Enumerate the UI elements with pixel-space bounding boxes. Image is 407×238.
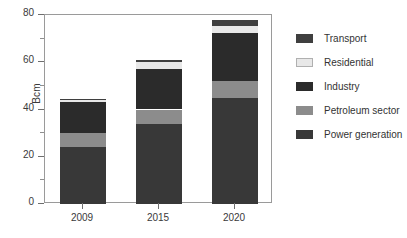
y-tick-0 xyxy=(38,203,44,204)
bar-segment-2015-power-generation xyxy=(136,124,182,204)
y-axis-title: Bcm xyxy=(31,64,42,124)
legend-swatch-icon xyxy=(296,106,313,115)
bar-segment-2020-industry xyxy=(212,33,258,81)
x-tick-2020 xyxy=(234,203,235,209)
y-tick-label-40: 40 xyxy=(2,102,34,113)
legend-item-residential[interactable]: Residential xyxy=(296,50,402,74)
legend-item-power-generation[interactable]: Power generation xyxy=(296,122,402,146)
chart-legend: TransportResidentialIndustryPetroleum se… xyxy=(296,26,402,146)
x-tick-label-2015: 2015 xyxy=(128,212,188,223)
bar-2015 xyxy=(136,15,182,204)
bar-segment-2009-petroleum-sector xyxy=(60,133,106,147)
x-tick-label-2020: 2020 xyxy=(204,212,264,223)
y-tick-label-80: 80 xyxy=(2,7,34,18)
legend-item-transport[interactable]: Transport xyxy=(296,26,402,50)
legend-label: Power generation xyxy=(324,129,402,140)
bar-2020 xyxy=(212,15,258,204)
legend-swatch-icon xyxy=(296,130,313,139)
bar-segment-2020-residential xyxy=(212,26,258,33)
bar-2009 xyxy=(60,15,106,204)
bar-segment-2015-petroleum-sector xyxy=(136,110,182,124)
bar-segment-2020-power-generation xyxy=(212,98,258,204)
y-tick-label-20: 20 xyxy=(2,149,34,160)
x-tick-2009 xyxy=(82,203,83,209)
x-tick-2015 xyxy=(158,203,159,209)
bar-segment-2009-residential xyxy=(60,100,106,102)
y-tick-label-60: 60 xyxy=(2,54,34,65)
legend-label: Residential xyxy=(324,57,373,68)
bar-segment-2020-petroleum-sector xyxy=(212,81,258,98)
y-tick-label-0: 0 xyxy=(2,196,34,207)
bar-segment-2009-industry xyxy=(60,102,106,133)
plot-area xyxy=(44,14,272,203)
legend-swatch-icon xyxy=(296,34,313,43)
bar-segment-2015-transport xyxy=(136,60,182,62)
bar-segment-2015-residential xyxy=(136,62,182,69)
legend-label: Transport xyxy=(324,33,366,44)
legend-swatch-icon xyxy=(296,58,313,67)
legend-item-petroleum-sector[interactable]: Petroleum sector xyxy=(296,98,402,122)
legend-label: Industry xyxy=(324,81,360,92)
x-tick-label-2009: 2009 xyxy=(52,212,112,223)
bar-segment-2015-industry xyxy=(136,69,182,109)
legend-item-industry[interactable]: Industry xyxy=(296,74,402,98)
stacked-bar-chart: Bcm 020406080 200920152020 TransportResi… xyxy=(0,0,407,238)
bar-segment-2020-transport xyxy=(212,20,258,26)
bar-segment-2009-transport xyxy=(60,99,106,100)
bar-segment-2009-power-generation xyxy=(60,147,106,204)
legend-swatch-icon xyxy=(296,82,313,91)
legend-label: Petroleum sector xyxy=(324,105,400,116)
